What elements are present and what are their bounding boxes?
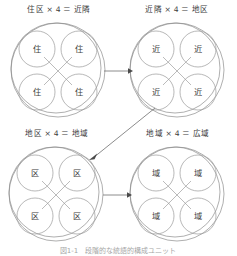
cell-label-bl: 区 xyxy=(31,211,39,221)
cell-label-br: 域 xyxy=(194,211,202,221)
group-kinrin-title: 近隣 × 4 ＝ 地区 xyxy=(145,4,208,14)
outer-ring-primary xyxy=(9,147,103,241)
outer-ring-primary xyxy=(130,23,224,117)
cell-label-tr: 域 xyxy=(194,168,202,178)
cell-label-br: 近 xyxy=(194,87,202,97)
outer-ring-primary xyxy=(11,23,105,117)
cell-label-br: 住 xyxy=(75,87,83,97)
arrow-bottom-right-head xyxy=(127,192,132,198)
cell-label-tl: 域 xyxy=(152,168,160,178)
arrow-top-right xyxy=(104,68,133,74)
cell-label-tl: 近 xyxy=(152,44,160,54)
cell-label-tr: 住 xyxy=(75,44,83,54)
outer-ring-primary xyxy=(130,147,224,241)
group-chiku-title: 地区 × 4 ＝ 地域 xyxy=(25,128,88,138)
group-chiiki: 地域 × 4 ＝ 広域 域 域 域 域 xyxy=(130,128,224,241)
group-chiiki-title: 地域 × 4 ＝ 広域 xyxy=(146,128,209,138)
cell-label-tl: 住 xyxy=(33,44,41,54)
figure-caption: 図1-1 段階的な統語的構成ユニット xyxy=(60,246,176,255)
arrow-bottom-right xyxy=(103,192,132,198)
arrow-diagonal-head xyxy=(89,154,97,160)
cell-label-bl: 近 xyxy=(152,87,160,97)
cell-label-tr: 区 xyxy=(73,168,81,178)
group-jukku: 住区 × 4 ＝ 近隣 住 住 住 住 xyxy=(11,4,105,117)
cell-label-br: 区 xyxy=(73,211,81,221)
group-chiku: 地区 × 4 ＝ 地域 区 区 区 区 xyxy=(9,128,103,241)
cell-label-bl: 域 xyxy=(152,211,160,221)
cell-label-tl: 区 xyxy=(31,168,39,178)
hierarchy-diagram: 住区 × 4 ＝ 近隣 住 住 住 住 近隣 × 4 ＝ 地区 近 xyxy=(0,0,237,256)
group-kinrin: 近隣 × 4 ＝ 地区 近 近 近 近 xyxy=(130,4,224,117)
cell-label-bl: 住 xyxy=(33,87,41,97)
cell-label-tr: 近 xyxy=(194,44,202,54)
figure-canvas: 住区 × 4 ＝ 近隣 住 住 住 住 近隣 × 4 ＝ 地区 近 xyxy=(0,0,237,256)
arrow-diagonal xyxy=(89,108,155,160)
group-jukku-title: 住区 × 4 ＝ 近隣 xyxy=(27,4,90,14)
